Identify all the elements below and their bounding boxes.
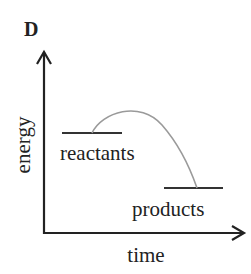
products-label: products — [132, 197, 204, 221]
y-axis-label: energy — [11, 116, 35, 173]
x-axis-label: time — [127, 243, 164, 267]
y-axis — [37, 52, 51, 234]
x-axis — [43, 226, 244, 240]
energy-diagram: D energy time reactants products — [0, 0, 251, 274]
reactants-label: reactants — [60, 141, 135, 165]
panel-label: D — [24, 18, 38, 40]
